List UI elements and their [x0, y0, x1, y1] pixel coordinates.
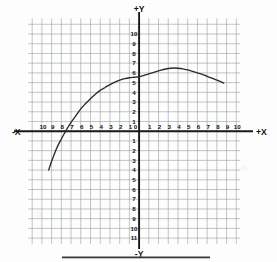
- tick-label: 2: [119, 123, 123, 130]
- y-positive-axis-label: +Y: [134, 4, 145, 14]
- tick-label: 2: [132, 108, 136, 115]
- tick-label: 7: [132, 195, 136, 202]
- scan-edge-bar: [62, 257, 210, 259]
- tick-label: 10: [39, 123, 46, 130]
- tick-label: 10: [234, 123, 241, 130]
- tick-label: 5: [90, 123, 94, 130]
- tick-label: 3: [132, 157, 136, 164]
- tick-label: 5: [132, 176, 136, 183]
- tick-label: 6: [197, 123, 201, 130]
- tick-label: 7: [70, 123, 74, 130]
- graph-figure: 1098765432101234567891010987654321123456…: [0, 0, 277, 262]
- tick-label: 3: [132, 98, 136, 105]
- tick-label: 9: [132, 40, 136, 47]
- tick-label: 6: [80, 123, 84, 130]
- x-positive-axis-label: +X: [256, 127, 267, 137]
- x-negative-axis-label: -X: [12, 127, 21, 137]
- tick-label: 4: [99, 123, 103, 130]
- tick-label: 8: [61, 123, 65, 130]
- tick-label: 11: [131, 234, 138, 241]
- tick-label: 6: [132, 186, 136, 193]
- coordinate-plane: 1098765432101234567891010987654321123456…: [0, 0, 277, 262]
- tick-label: 9: [226, 123, 230, 130]
- tick-label: 4: [132, 166, 136, 173]
- tick-label: 9: [51, 123, 55, 130]
- tick-label: 10: [130, 225, 137, 232]
- tick-label: 10: [130, 30, 137, 37]
- tick-label: 8: [216, 123, 220, 130]
- tick-label: 5: [132, 79, 136, 86]
- tick-label: 7: [132, 59, 136, 66]
- tick-label: 3: [168, 123, 172, 130]
- tick-label: 2: [132, 147, 136, 154]
- tick-label: 2: [158, 123, 162, 130]
- tick-label: 8: [132, 50, 136, 57]
- tick-labels: 1098765432101234567891010987654321123456…: [39, 30, 241, 241]
- tick-label: 1: [132, 118, 136, 125]
- tick-label: 4: [132, 89, 136, 96]
- tick-label: 5: [187, 123, 191, 130]
- tick-label: 1: [148, 123, 152, 130]
- tick-label: 6: [132, 69, 136, 76]
- tick-label: 1: [132, 137, 136, 144]
- tick-label: 4: [177, 123, 181, 130]
- tick-label: 8: [132, 205, 136, 212]
- tick-label: 3: [109, 123, 113, 130]
- tick-label: 9: [132, 215, 136, 222]
- tick-label: 7: [206, 123, 210, 130]
